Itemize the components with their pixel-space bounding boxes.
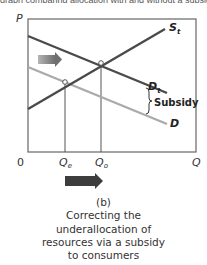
equilibrium-point-qo	[99, 61, 104, 66]
caption-line-3: resources via a subsidy	[0, 236, 207, 249]
supply-curve-st	[28, 29, 165, 109]
subsidy-label: Subsidy	[154, 97, 199, 108]
dt-label: Dt	[148, 80, 161, 95]
q-axis-label: Q	[192, 156, 201, 169]
qo-tick-label: Qo	[95, 156, 108, 170]
quantity-increase-arrow-icon	[65, 173, 103, 189]
equilibrium-point-qe	[63, 80, 68, 85]
st-label: St	[169, 21, 181, 36]
panel-label: (b)	[0, 196, 207, 209]
figure-caption: (b) Correcting the underallocation of re…	[0, 196, 207, 262]
demand-shift-arrow-icon	[38, 52, 62, 67]
qe-tick-label: Qe	[59, 156, 72, 170]
caption-line-2: underallocation of	[0, 223, 207, 236]
subsidy-chart: St Dt Subsidy D P 0 Q Qe Qo	[0, 0, 207, 195]
caption-line-1: Correcting the	[0, 209, 207, 222]
plot-frame	[28, 19, 196, 152]
d-label: D	[170, 117, 179, 130]
p-axis-label: P	[16, 12, 23, 25]
origin-label: 0	[17, 156, 24, 169]
demand-curve-dt	[28, 36, 167, 93]
caption-line-4: to consumers	[0, 249, 207, 262]
